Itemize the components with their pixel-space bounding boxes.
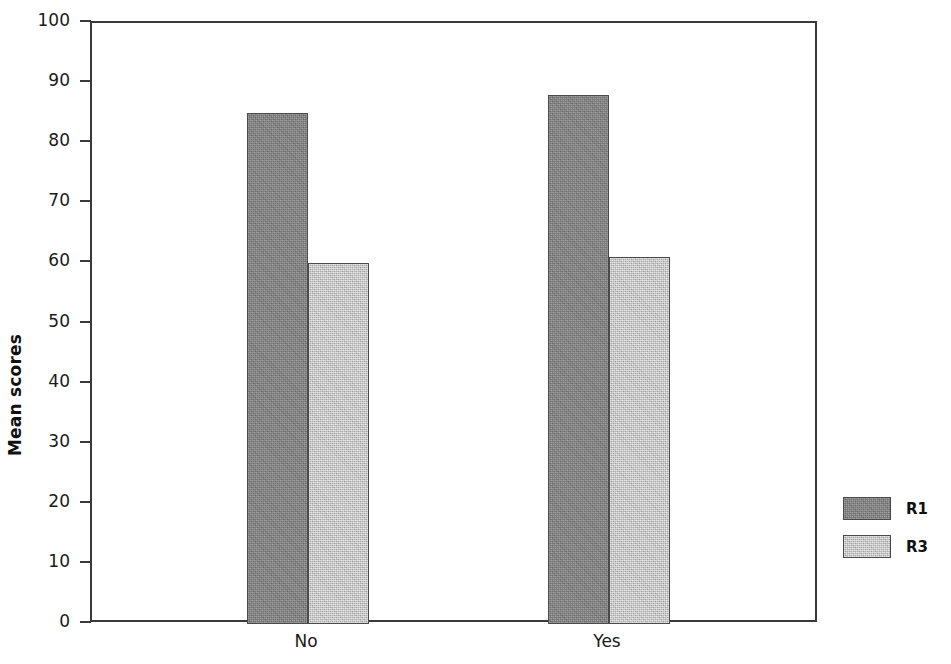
- legend-swatch-r3: [843, 535, 891, 558]
- y-axis-tick-label: 20: [10, 493, 70, 510]
- x-axis-label-yes: Yes: [527, 633, 687, 650]
- y-axis-tick-label: 90: [10, 72, 70, 89]
- legend-label: R1: [906, 500, 928, 518]
- y-axis-tick-label: 0: [10, 613, 70, 630]
- legend-swatch-r1: [843, 497, 891, 520]
- y-axis-tick-label: 80: [10, 132, 70, 149]
- y-axis-tick-label: 30: [10, 433, 70, 450]
- bar-r3-yes: [609, 257, 670, 624]
- x-axis-label-no: No: [226, 633, 386, 650]
- y-axis-tick-label: 100: [10, 12, 70, 29]
- legend-label: R3: [906, 538, 928, 556]
- plot-area: [90, 21, 817, 622]
- y-axis-tick-label: 70: [10, 192, 70, 209]
- bar-chart-figure: Mean scores 1009080706050403020100 NoYes…: [0, 0, 951, 664]
- y-axis-tick-label: 10: [10, 553, 70, 570]
- y-axis-tick-label: 60: [10, 252, 70, 269]
- bar-r1-no: [247, 113, 308, 624]
- y-axis-tick-label: 40: [10, 373, 70, 390]
- bar-r1-yes: [548, 95, 609, 624]
- y-axis-title: Mean scores: [2, 256, 28, 456]
- bar-r3-no: [308, 263, 369, 624]
- y-axis-tick-label: 50: [10, 313, 70, 330]
